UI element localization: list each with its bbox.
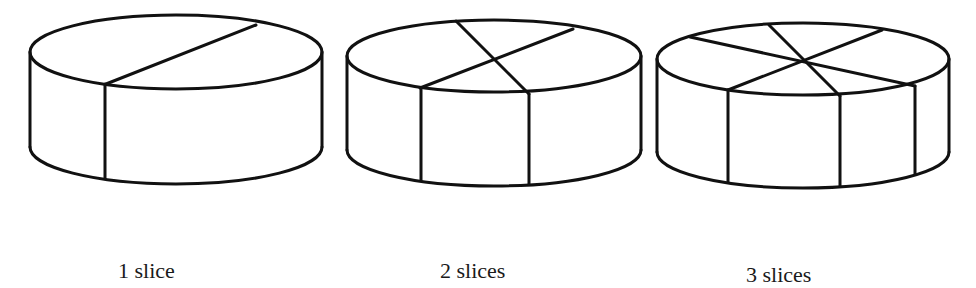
pie-top [347,20,641,92]
caption-slices: 1 slice [118,258,189,284]
pie-bottom [657,152,949,188]
pie-2 [347,20,641,186]
caption-slices: 2 slices [440,258,511,284]
pie-3 [657,23,949,188]
caption-pie-2: 2 slices 4 pieces [440,206,511,288]
slice-line [456,21,529,94]
caption-pie-3: 3 slices 6 pieces [746,210,817,288]
pie-bottom [30,147,322,184]
pie-top [30,15,322,89]
slice-line [106,25,256,84]
pie-bottom [347,150,641,186]
caption-pie-1: 1 slice 2 pieces [118,206,189,288]
slice-line [728,30,882,90]
slice-line [690,37,915,86]
caption-slices: 3 slices [746,262,817,288]
pie-1 [30,15,322,184]
slice-line [420,29,573,88]
